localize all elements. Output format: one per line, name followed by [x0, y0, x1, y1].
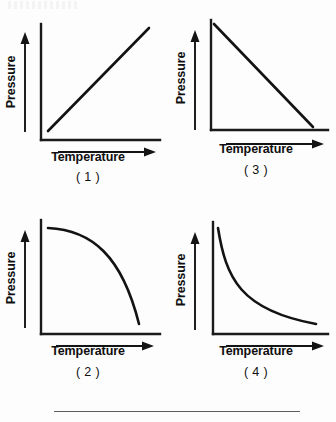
- data-curve-1: [48, 28, 149, 131]
- panel-caption-2: ( 2 ): [18, 365, 158, 379]
- graph-panel-4: Pressure Temperature ( 4 ): [168, 206, 336, 406]
- panel-caption-4: ( 4 ): [186, 365, 326, 379]
- panel-caption-3: ( 3 ): [186, 163, 326, 177]
- figure-sheet: Pressure Temperature ( 1 ) Pressure Temp…: [0, 0, 336, 422]
- up-arrow-head-icon: [21, 32, 30, 44]
- x-axis-label-3: Temperature: [186, 142, 326, 156]
- up-arrow-head-icon: [191, 30, 200, 42]
- data-curve-4: [218, 228, 316, 324]
- graph-panel-1: Pressure Temperature ( 1 ): [0, 8, 168, 208]
- x-axis-label-1: Temperature: [18, 150, 158, 164]
- plot-area-2: [0, 206, 168, 366]
- up-arrow-head-icon: [21, 230, 30, 242]
- x-axis-label-4: Temperature: [186, 344, 326, 358]
- data-curve-2: [48, 228, 139, 324]
- up-arrow-head-icon: [191, 232, 200, 244]
- plot-area-4: [168, 206, 336, 366]
- data-curve-3: [214, 24, 313, 127]
- graph-panel-2: Pressure Temperature ( 2 ): [0, 206, 168, 406]
- graph-panel-3: Pressure Temperature ( 3 ): [168, 8, 336, 208]
- x-axis-label-2: Temperature: [18, 344, 158, 358]
- panel-caption-1: ( 1 ): [18, 170, 158, 184]
- plot-area-1: [0, 8, 168, 168]
- horizontal-divider: [54, 411, 300, 412]
